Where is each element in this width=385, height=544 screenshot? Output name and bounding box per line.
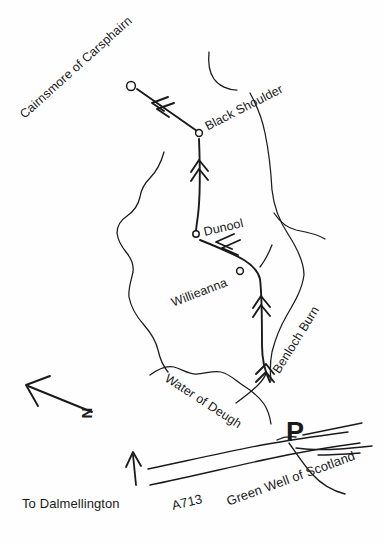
label-to-dalmellington: To Dalmellington bbox=[22, 497, 120, 510]
summit-marker-dunool bbox=[193, 231, 199, 237]
parking-p-icon: P bbox=[286, 419, 304, 446]
summit-marker-willieanna bbox=[237, 268, 244, 275]
stream-lines bbox=[117, 52, 325, 424]
access-arrow-icon bbox=[126, 452, 141, 485]
route-path bbox=[137, 89, 270, 382]
route-chevron-icon bbox=[152, 97, 274, 382]
summit-marker-cairnsmore bbox=[127, 82, 136, 91]
route-map: Cairnsmore of Carsphairn Black Shoulder … bbox=[0, 0, 385, 544]
north-label: N bbox=[79, 408, 94, 419]
summit-marker-black-shoulder bbox=[196, 130, 203, 137]
